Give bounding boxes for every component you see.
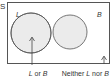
outside-annotation-neither: Neither xyxy=(62,70,87,77)
set-b-circle xyxy=(53,15,87,49)
outside-annotation: Neither L nor B xyxy=(52,70,112,77)
union-annotation-b: B xyxy=(43,70,48,77)
outside-annotation-nor: nor xyxy=(90,70,104,77)
venn-diagram: S L B L or B Neither L nor B xyxy=(0,0,112,81)
outside-annotation-b: B xyxy=(104,70,109,77)
union-annotation: L or B xyxy=(19,70,53,77)
union-annotation-or: or xyxy=(33,70,43,77)
set-l-label: L xyxy=(16,11,20,18)
set-b-label: B xyxy=(97,11,102,18)
universe-label: S xyxy=(0,2,5,11)
